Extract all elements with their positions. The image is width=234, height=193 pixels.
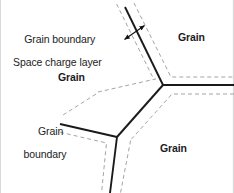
legend-line-grain-boundary: Grain boundary (24, 33, 95, 45)
grain-boundary-diagram: Grain boundary Space charge layer Grain … (0, 0, 234, 193)
grain-boundary-annotation-line2: boundary (14, 149, 76, 161)
grain-label-top-right: Grain (178, 32, 205, 44)
grain-boundary-top (125, 7, 163, 85)
grain-boundary-annotation-line1: Grain (38, 125, 63, 137)
grain-label-bottom: Grain (160, 143, 187, 155)
legend-line-space-charge-layer: Space charge layer (13, 57, 102, 69)
grain-boundary-bottom (110, 137, 117, 193)
grain-label-left: Grain (58, 72, 85, 84)
grain-boundary-annotation-left: Grain boundary (14, 114, 76, 185)
